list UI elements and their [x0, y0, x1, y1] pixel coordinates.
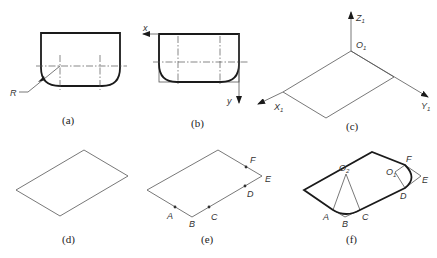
label-b: B	[342, 219, 348, 229]
radius-label: R	[10, 88, 17, 98]
label-c: C	[211, 212, 218, 222]
y-axis-label: Y1	[421, 101, 430, 112]
o1-construction	[395, 165, 405, 188]
caption-e: (e)	[201, 233, 214, 246]
label-e: E	[265, 174, 272, 184]
point-d	[244, 185, 247, 188]
caption-c: (c)	[346, 120, 359, 133]
technical-drawing: R (a) x y (b) Z1 O1 Y1 X1 (c) (d)	[0, 0, 437, 258]
label-f: F	[406, 154, 412, 164]
label-d: D	[400, 191, 407, 201]
label-c: C	[362, 212, 369, 222]
parallelogram	[16, 150, 128, 216]
construction-lines	[333, 174, 360, 210]
caption-f: (f)	[346, 233, 357, 246]
label-e: E	[422, 175, 429, 185]
point-c	[208, 206, 211, 209]
panel-e: A B C D E F (e)	[147, 150, 272, 246]
panel-c: Z1 O1 Y1 X1 (c)	[258, 12, 430, 133]
point-a	[174, 206, 177, 209]
x-axis-label: X1	[273, 102, 283, 113]
panel-a: R (a)	[10, 33, 127, 127]
origin-label: O1	[356, 40, 366, 51]
y-axis-label: y	[226, 96, 232, 106]
caption-a: (a)	[62, 114, 75, 127]
label-a: A	[322, 212, 329, 222]
parallelogram	[147, 150, 262, 217]
part-outline	[159, 34, 239, 82]
z-axis-label: Z1	[355, 13, 365, 24]
label-d: D	[247, 189, 254, 199]
bounding-rect	[159, 34, 239, 82]
part-outline	[41, 33, 120, 86]
label-b: B	[189, 219, 195, 229]
point-f	[245, 166, 248, 169]
panel-d: (d)	[16, 150, 128, 246]
caption-b: (b)	[191, 117, 204, 130]
label-a: A	[166, 211, 173, 221]
isometric-base	[283, 51, 394, 118]
x-axis-label: x	[142, 23, 148, 33]
panel-f: O2 O1 A B C D E F (f)	[304, 152, 429, 246]
radius-leader	[19, 66, 60, 92]
panel-b: x y (b)	[142, 23, 248, 130]
label-o1: O1	[386, 167, 396, 178]
caption-d: (d)	[62, 233, 75, 246]
label-f: F	[250, 155, 256, 165]
